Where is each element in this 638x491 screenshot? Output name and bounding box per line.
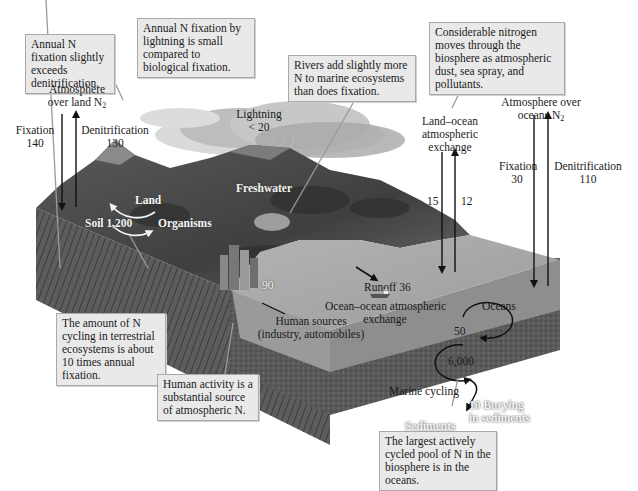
label-land-to-ocean-value: 15 bbox=[427, 195, 439, 208]
denit-ocean-text: Denitrification bbox=[553, 160, 623, 173]
label-oceans: Oceans bbox=[482, 300, 516, 313]
label-atmosphere-over-land: Atmosphere over land N2 bbox=[36, 83, 118, 112]
label-soil-pool: Soil 1,200 bbox=[85, 217, 132, 230]
freshwater-lake bbox=[254, 213, 290, 231]
lightning-value: < 20 bbox=[236, 121, 282, 134]
callout-rivers-add: Rivers add slightly more N to marine eco… bbox=[288, 55, 416, 102]
label-marine-cycling: Marine cycling bbox=[389, 385, 459, 398]
burying-line2: in sediments bbox=[469, 412, 530, 425]
fixation-land-text: Fixation bbox=[13, 124, 57, 137]
label-fixation-ocean: Fixation 30 bbox=[499, 160, 535, 186]
label-organisms: Organisms bbox=[158, 217, 212, 230]
burying-line1: 10 Burying bbox=[469, 399, 530, 412]
label-freshwater: Freshwater bbox=[236, 182, 292, 195]
land-ocean-line2: atmospheric bbox=[421, 128, 479, 141]
fixation-land-value: 140 bbox=[13, 137, 57, 150]
label-lightning: Lightning < 20 bbox=[236, 108, 282, 134]
callout-largest-pool: The largest actively cycled pool of N in… bbox=[379, 431, 497, 491]
label-land: Land bbox=[135, 194, 161, 207]
denit-land-text: Denitrification bbox=[80, 124, 150, 137]
label-marine-lower-pool: 6,000 bbox=[448, 355, 474, 368]
label-sediments: Sediments bbox=[405, 420, 455, 433]
label-runoff: Runoff 36 bbox=[364, 281, 411, 294]
atm-ocean-line2: oceans N2 bbox=[498, 109, 584, 125]
atm-land-line2: over land N2 bbox=[36, 96, 118, 112]
label-denitrification-ocean: Denitrification 110 bbox=[553, 160, 623, 186]
ship bbox=[370, 294, 390, 298]
fixation-ocean-value: 30 bbox=[499, 173, 535, 186]
label-denitrification-land: Denitrification 130 bbox=[80, 124, 150, 150]
label-land-ocean-exchange: Land–ocean atmospheric exchange bbox=[421, 115, 479, 154]
human-sources-line1: Human sources bbox=[255, 315, 367, 328]
callout-terrestrial-cycling: The amount of N cycling in terrestrial e… bbox=[56, 313, 166, 386]
label-ocean-to-land-value: 12 bbox=[461, 195, 473, 208]
label-burying: 10 Burying in sediments bbox=[469, 399, 530, 425]
label-atmosphere-over-oceans: Atmosphere over oceans N2 bbox=[498, 96, 584, 125]
land-ocean-line1: Land–ocean bbox=[421, 115, 479, 128]
human-sources-line2: (industry, automobiles) bbox=[255, 328, 367, 341]
label-fixation-land: Fixation 140 bbox=[13, 124, 57, 150]
atm-ocean-line1: Atmosphere over bbox=[498, 96, 584, 109]
ocean-ocean-line1: Ocean–ocean atmospheric bbox=[325, 300, 445, 313]
callout-human-activity: Human activity is a substantial source o… bbox=[157, 374, 259, 421]
atm-land-line1: Atmosphere bbox=[36, 83, 118, 96]
denit-land-value: 130 bbox=[80, 137, 150, 150]
label-human-value: 90 bbox=[262, 279, 274, 292]
lightning-text: Lightning bbox=[236, 108, 282, 121]
land-ocean-line3: exchange bbox=[421, 141, 479, 154]
label-human-sources: Human sources (industry, automobiles) bbox=[255, 315, 367, 341]
callout-lightning-small: Annual N fixation by lightning is small … bbox=[137, 18, 255, 78]
denit-ocean-value: 110 bbox=[553, 173, 623, 186]
callout-atmospheric-moves: Considerable nitrogen moves through the … bbox=[429, 22, 565, 95]
label-marine-upper-pool: 50 bbox=[454, 325, 466, 338]
fixation-ocean-text: Fixation bbox=[499, 160, 535, 173]
